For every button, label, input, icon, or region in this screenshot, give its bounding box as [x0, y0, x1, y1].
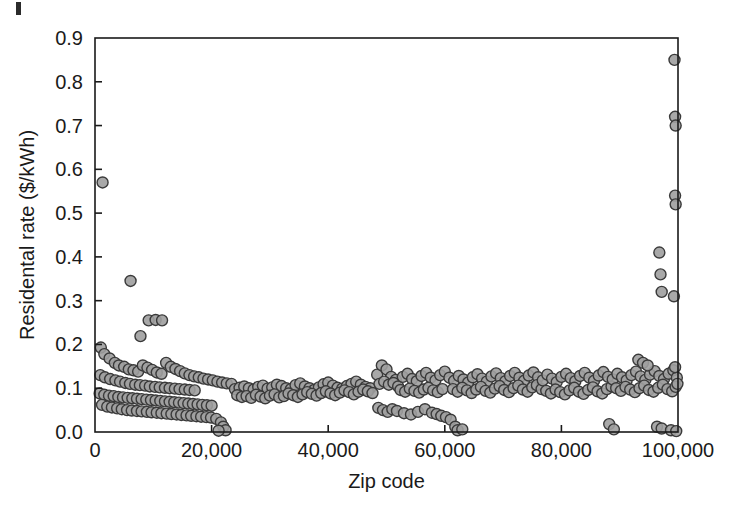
data-point — [125, 275, 136, 286]
data-point — [608, 424, 619, 435]
x-axis-tick-label: 60,000 — [414, 439, 475, 461]
data-point — [97, 177, 108, 188]
data-point — [457, 424, 468, 435]
x-axis-tick-label: 0 — [89, 439, 100, 461]
data-point — [642, 360, 653, 371]
y-axis-tick-label: 0.5 — [55, 202, 83, 224]
data-point — [206, 400, 217, 411]
y-axis-tick-label: 0.3 — [55, 290, 83, 312]
data-point — [670, 362, 681, 373]
x-axis-title: Zip code — [348, 470, 425, 492]
data-point — [655, 269, 666, 280]
y-axis-tick-label: 0.6 — [55, 158, 83, 180]
data-point — [135, 331, 146, 342]
x-axis-tick-label: 80,000 — [531, 439, 592, 461]
x-axis-tick-label: 100,000 — [642, 439, 714, 461]
x-axis-tick-label: 40,000 — [298, 439, 359, 461]
x-axis-tick-labels: 020,00040,00060,00080,000100,000 — [89, 439, 714, 461]
data-point — [656, 286, 667, 297]
y-axis-tick-label: 0.8 — [55, 71, 83, 93]
x-axis-tick-label: 20,000 — [181, 439, 242, 461]
data-point — [654, 247, 665, 258]
data-point — [157, 315, 168, 326]
y-axis-tick-label: 0.7 — [55, 115, 83, 137]
y-axis-title: Residental rate ($/kWh) — [16, 130, 38, 340]
data-point — [437, 384, 448, 395]
data-point — [670, 120, 681, 131]
data-point — [189, 385, 200, 396]
y-axis-tick-label: 0.2 — [55, 333, 83, 355]
y-axis-tick-label: 0.9 — [55, 27, 83, 49]
scatter-plot: 020,00040,00060,00080,000100,000 0.00.10… — [0, 0, 743, 511]
data-point — [213, 425, 224, 436]
y-axis-tick-labels: 0.00.10.20.30.40.50.60.70.80.9 — [55, 27, 83, 443]
data-point — [670, 199, 681, 210]
y-axis-tick-label: 0.1 — [55, 377, 83, 399]
y-axis-tick-label: 0.4 — [55, 246, 83, 268]
y-axis-tick-label: 0.0 — [55, 421, 83, 443]
data-point — [156, 368, 167, 379]
data-point — [671, 426, 682, 437]
page-number-marker — [16, 2, 21, 15]
data-point — [367, 388, 378, 399]
data-point-layer — [94, 54, 683, 436]
figure-container: 020,00040,00060,00080,000100,000 0.00.10… — [0, 0, 743, 511]
